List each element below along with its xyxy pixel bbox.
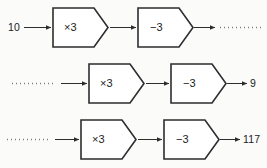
function-machine-diagram: 10 ×3 −3 ×3 −3 9 xyxy=(0,0,267,168)
operation-box-multiply xyxy=(89,64,144,103)
operation-box-subtract xyxy=(138,8,193,47)
operation-box-subtract xyxy=(171,64,226,103)
function-chain-row-1: 10 ×3 −3 xyxy=(0,0,267,56)
row-3-operation-1-label: ×3 xyxy=(92,134,105,145)
row-1-graphics xyxy=(0,0,267,56)
row-2-operation-1-label: ×3 xyxy=(100,78,113,89)
row-2-output-value: 9 xyxy=(250,78,256,89)
row-2-operation-2-label: −3 xyxy=(183,78,196,89)
operation-box-subtract xyxy=(164,120,219,159)
function-chain-row-2: ×3 −3 9 xyxy=(0,56,267,112)
operation-box-multiply xyxy=(81,120,136,159)
row-3-operation-2-label: −3 xyxy=(176,134,189,145)
row-1-operation-1-label: ×3 xyxy=(64,22,77,33)
row-2-graphics xyxy=(0,56,267,112)
row-3-output-value: 117 xyxy=(243,134,260,145)
operation-box-multiply xyxy=(53,8,108,47)
row-1-input-value: 10 xyxy=(8,22,20,33)
function-chain-row-3: ×3 −3 117 xyxy=(0,112,267,168)
row-1-operation-2-label: −3 xyxy=(150,22,163,33)
row-3-graphics xyxy=(0,112,267,168)
